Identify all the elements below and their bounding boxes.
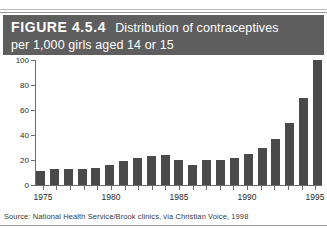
x-tick-mark [288,186,289,190]
y-tick-mark [31,85,35,86]
x-tick-mark [152,186,153,190]
x-tick-mark [261,186,262,190]
bar [230,158,239,186]
y-tick-mark [31,110,35,111]
x-tick-mark [70,186,71,190]
bleed-label: 5.3 [279,0,288,1]
bleed-label: 12 [86,0,93,1]
bar [78,169,87,185]
bleed-label: 20 [232,0,239,1]
x-tick-label: 1980 [102,192,121,202]
x-tick-mark [247,186,248,190]
bar [244,154,253,185]
caption-line-1: FIGURE 4.5.4Distribution of contraceptiv… [11,18,316,37]
y-tick-mark [31,185,35,186]
x-tick-label: 1975 [34,192,53,202]
x-tick-mark [125,186,126,190]
bar [36,171,45,185]
y-tick-label: 80 [5,81,29,90]
bar [161,155,170,185]
figure-caption-banner: FIGURE 4.5.4Distribution of contraceptiv… [3,15,324,55]
x-tick-mark [315,186,316,190]
top-bleed-strip: 10 12 14 6.5 20 5.3 [0,0,327,11]
bleed-divider-rule [0,9,327,10]
y-tick-mark [31,160,35,161]
source-note: Source: National Health Service/Brook cl… [4,212,248,221]
y-tick-label: 0 [5,181,29,190]
y-tick-label: 60 [5,106,29,115]
y-tick-label: 40 [5,131,29,140]
x-tick-mark [179,186,180,190]
bar [216,160,225,185]
x-tick-mark [220,186,221,190]
figure-container: FIGURE 4.5.4Distribution of contraceptiv… [0,12,327,226]
y-tick-label: 20 [5,156,29,165]
x-tick-mark [206,186,207,190]
bar [64,169,73,185]
x-tick-mark [274,186,275,190]
x-tick-label: 1995 [306,192,325,202]
bar [202,160,211,185]
figure-number: FIGURE 4.5.4 [11,19,106,35]
bar [174,160,183,185]
x-tick-mark [56,186,57,190]
x-tick-mark [233,186,234,190]
x-tick-mark [111,186,112,190]
caption-text-part-1: Distribution of contraceptives [115,21,279,35]
bar [299,98,308,186]
x-tick-mark [302,186,303,190]
y-tick-mark [31,135,35,136]
bar [119,161,128,185]
bar [313,60,322,185]
bar [271,139,280,185]
x-tick-label: 1985 [170,192,189,202]
bar [133,158,142,186]
bar [91,168,100,186]
x-tick-mark [138,186,139,190]
bleed-label: 10 [38,0,45,1]
bar [258,148,267,186]
bar [285,123,294,186]
bar [50,169,59,185]
x-tick-mark [193,186,194,190]
y-tick-label: 100 [5,56,29,65]
bar-chart-plot: 020406080100 19751980198519901995 [0,55,327,201]
x-tick-mark [84,186,85,190]
y-tick-mark [31,60,35,61]
bleed-label: 14 [134,0,141,1]
caption-text-part-2: per 1,000 girls aged 14 or 15 [11,37,316,54]
x-tick-mark [97,186,98,190]
bleed-tick-labels: 10 12 14 6.5 20 5.3 [0,0,327,1]
bar [188,165,197,185]
bar [105,165,114,185]
x-tick-label: 1990 [238,192,257,202]
x-tick-mark [43,186,44,190]
bar [147,156,156,185]
x-tick-mark [165,186,166,190]
bleed-label: 6.5 [182,0,191,1]
bar-series [36,60,322,185]
